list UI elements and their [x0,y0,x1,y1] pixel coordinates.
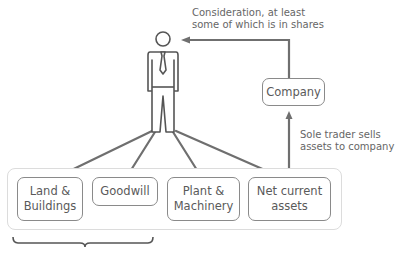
asset-land-buildings: Land & Buildings [17,177,83,221]
asset-plant-machinery: Plant & Machinery [167,177,240,221]
businessman-icon [148,32,178,132]
arrowhead-up-icon [286,111,293,119]
consideration-label: Consideration, at least some of which is… [192,7,324,31]
sale-label: Sole trader sells assets to company [300,129,394,153]
brace-icon [13,237,153,247]
consideration-arrow [188,40,289,78]
company-box: Company [262,78,325,106]
asset-net-current-assets: Net current assets [248,177,331,221]
arrowhead-left-icon [181,37,190,44]
asset-goodwill: Goodwill [92,177,158,206]
